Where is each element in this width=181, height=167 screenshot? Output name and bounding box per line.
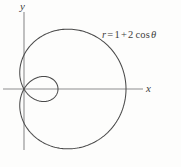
equation-annotation: r=1+2cosθ [102,30,156,41]
equation-plus-sign: + [120,29,128,40]
equation-theta-symbol: θ [150,29,156,40]
figure-canvas [0,0,181,167]
polar-curve-figure: y x r=1+2cosθ [0,0,181,167]
y-axis-label: y [20,1,25,12]
equation-cosine-function: cos [133,29,150,40]
x-axis-label: x [146,83,151,94]
